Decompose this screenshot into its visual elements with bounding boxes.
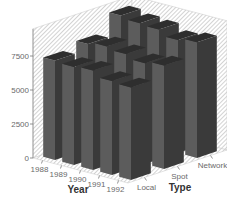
y-axis: 0250050007500: [11, 29, 33, 163]
bar-local-1992: [119, 78, 151, 180]
y-tick-label: 2500: [11, 120, 29, 129]
type-tick-label: Spot: [171, 172, 188, 181]
bar-spot-1992: [152, 56, 184, 169]
y-tick-label: 7500: [11, 52, 29, 61]
type-axis-title: Type: [169, 182, 192, 193]
year-tick-label: 1989: [50, 170, 68, 179]
year-tick-label: 1991: [88, 180, 106, 189]
year-axis-title: Year: [67, 184, 88, 195]
type-tick-label: Network: [198, 161, 227, 170]
bar-network-1992: [185, 33, 217, 158]
year-tick-label: 1990: [69, 175, 87, 184]
y-tick-label: 0: [25, 154, 30, 163]
y-tick-label: 5000: [11, 86, 29, 95]
year-tick-label: 1988: [31, 165, 49, 174]
3d-bar-chart: 0250050007500 19881989199019911992 Local…: [0, 0, 227, 211]
type-tick-label: Local: [137, 183, 156, 192]
year-tick-label: 1992: [107, 185, 125, 194]
